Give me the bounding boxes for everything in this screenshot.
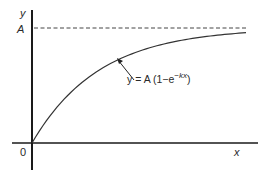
x-axis-label: x — [233, 146, 240, 158]
origin-label: 0 — [20, 146, 26, 158]
asymptote-label: A — [16, 23, 24, 35]
curve-series — [32, 33, 246, 143]
annotation-suffix: ) — [187, 73, 191, 85]
annotation-prefix: y = A (1−e — [127, 73, 174, 85]
chart: y A 0 x y = A (1−e−kx) — [0, 0, 272, 172]
annotation-label: y = A (1−e−kx) — [127, 71, 190, 85]
annotation-exponent: −kx — [174, 71, 188, 80]
y-axis-label: y — [19, 7, 27, 19]
